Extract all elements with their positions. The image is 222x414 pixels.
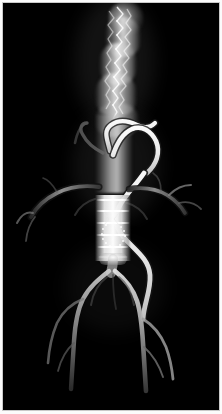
right-external-iliac-femoral	[143, 319, 173, 379]
right-common-iliac-artery	[115, 271, 146, 391]
cta-volume-rendering-figure: CTA 3D volume rendering Aorta with branc…	[0, 0, 222, 414]
left-common-iliac-artery	[71, 271, 109, 389]
rendering-canvas: CTA 3D volume rendering Aorta with branc…	[3, 3, 219, 410]
iliofemoral-vessels	[3, 3, 219, 410]
graft-distal-cap	[99, 253, 127, 265]
